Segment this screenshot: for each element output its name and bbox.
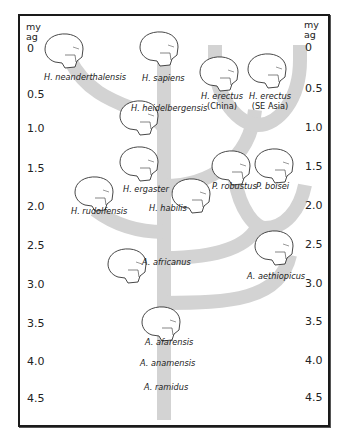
tick-left-1-0: 1.0 bbox=[27, 123, 45, 134]
label-erectus-china: H. erectus (China) bbox=[201, 91, 243, 111]
tick-right-2-0: 2.0 bbox=[305, 200, 323, 211]
axis-unit-ag: ag bbox=[26, 32, 41, 42]
skull-robustus bbox=[212, 151, 250, 185]
label-ramidus: A. ramidus bbox=[144, 382, 188, 392]
tick-right-1-5: 1.5 bbox=[305, 161, 323, 172]
tick-left-1-5: 1.5 bbox=[27, 163, 45, 174]
label-anamensis: A. anamensis bbox=[140, 358, 195, 368]
tick-right-0-5: 0.5 bbox=[305, 83, 323, 94]
label-afarensis: A. afarensis bbox=[145, 337, 193, 347]
label-rudolfensis: H. rudolfensis bbox=[71, 206, 127, 216]
tick-left-0-5: 0.5 bbox=[27, 89, 45, 100]
tick-right-3-0: 3.0 bbox=[305, 278, 323, 289]
skull-neanderthalensis bbox=[45, 34, 83, 68]
tick-left-3-0: 3.0 bbox=[27, 279, 45, 290]
axis-unit-right: my ag bbox=[304, 20, 319, 39]
label-neanderthalensis: H. neanderthalensis bbox=[44, 72, 126, 82]
skull-boisei bbox=[255, 149, 293, 183]
tick-right-3-5: 3.5 bbox=[305, 316, 323, 327]
label-heidelbergensis: H. heidelbergensis bbox=[131, 103, 207, 113]
label-erectus-china-region: (China) bbox=[201, 101, 243, 111]
tick-left-2-0: 2.0 bbox=[27, 201, 45, 212]
hominin-tree-diagram: my ag my ag 0 0.5 1.0 1.5 2.0 2.5 3.0 3.… bbox=[0, 0, 345, 441]
label-habilis: H. habilis bbox=[149, 203, 187, 213]
tick-right-1-0: 1.0 bbox=[305, 122, 323, 133]
tick-right-4-5: 4.5 bbox=[305, 392, 323, 403]
skull-afarensis bbox=[142, 307, 180, 341]
label-erectus-seasia-region: (SE Asia) bbox=[249, 101, 291, 111]
label-erectus-seasia-name: H. erectus bbox=[249, 91, 291, 101]
skull-africanus bbox=[108, 249, 146, 283]
tick-right-2-5: 2.5 bbox=[305, 239, 323, 250]
tick-left-0: 0 bbox=[27, 43, 34, 54]
label-robustus: P. robustus bbox=[212, 181, 257, 191]
skull-aethiopicus bbox=[255, 231, 293, 265]
tick-left-4-0: 4.0 bbox=[27, 356, 45, 367]
label-aethiopicus: A. aethiopicus bbox=[247, 271, 305, 281]
axis-unit-ag: ag bbox=[304, 30, 319, 40]
label-erectus-seasia: H. erectus (SE Asia) bbox=[249, 91, 291, 111]
tick-left-4-5: 4.5 bbox=[27, 393, 45, 404]
tick-right-0: 0 bbox=[305, 42, 312, 53]
tick-left-3-5: 3.5 bbox=[27, 318, 45, 329]
tick-left-2-5: 2.5 bbox=[27, 240, 45, 251]
tick-right-4-0: 4.0 bbox=[305, 355, 323, 366]
axis-unit-left: my ag bbox=[26, 22, 41, 41]
label-africanus: A. africanus bbox=[142, 257, 191, 267]
label-sapiens: H. sapiens bbox=[142, 73, 185, 83]
label-erectus-china-name: H. erectus bbox=[201, 91, 243, 101]
label-ergaster: H. ergaster bbox=[123, 184, 169, 194]
skull-illustrations bbox=[0, 0, 345, 441]
skull-ergaster bbox=[120, 147, 158, 181]
label-boisei: P. boisei bbox=[256, 181, 289, 191]
skull-sapiens bbox=[140, 32, 178, 66]
skull-erectus-china bbox=[200, 57, 238, 91]
skull-erectus-seasia bbox=[248, 54, 286, 88]
